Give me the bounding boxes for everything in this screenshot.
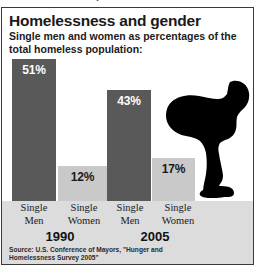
group-label-1990: 1990 (12, 229, 108, 244)
axis-label-line1: Single (58, 202, 110, 215)
axis-label-line1: Single (152, 202, 204, 215)
page-bleed-text: I (96, 0, 99, 3)
bar-single-men-2005: 43% (107, 90, 151, 201)
axis-label-single-women-1990: Single Women (58, 202, 110, 227)
axis-label-line1: Single (10, 202, 58, 215)
bar-single-men-1990: 51% (12, 59, 56, 201)
axis-label-line2: Women (152, 215, 204, 228)
chart-subtitle: Single men and women as percentages of t… (9, 30, 241, 55)
axis-label-line1: Single (106, 202, 154, 215)
bar-single-women-2005: 17% (152, 158, 195, 201)
plot-area: 51% 12% 43% 17% (2, 58, 254, 201)
page-title: Homelessness and gender (9, 12, 201, 30)
bar-value-single-women-2005: 17% (152, 162, 195, 176)
bar-value-single-men-1990: 51% (12, 63, 56, 77)
group-label-2005: 2005 (107, 229, 203, 244)
bar-value-single-men-2005: 43% (107, 94, 151, 108)
axis-label-line2: Women (58, 215, 110, 228)
axis-label-single-men-1990: Single Men (10, 202, 58, 227)
category-axis-labels: Single Men Single Women Single Men Singl… (2, 202, 212, 228)
axis-label-line2: Men (106, 215, 154, 228)
page-bleed-artifact: I (0, 0, 255, 7)
chart-footer: Single Men Single Women Single Men Singl… (2, 201, 254, 264)
bar-single-women-1990: 12% (58, 166, 107, 201)
axis-label-line2: Men (10, 215, 58, 228)
axis-label-single-women-2005: Single Women (152, 202, 204, 227)
infographic-chart: I Homelessness and gender Single men and… (0, 0, 255, 266)
bar-value-single-women-1990: 12% (58, 170, 107, 184)
source-note: Source: U.S. Conference of Mayors, "Hung… (9, 246, 199, 263)
chart-panel: Homelessness and gender Single men and w… (1, 7, 254, 265)
axis-label-single-men-2005: Single Men (106, 202, 154, 227)
